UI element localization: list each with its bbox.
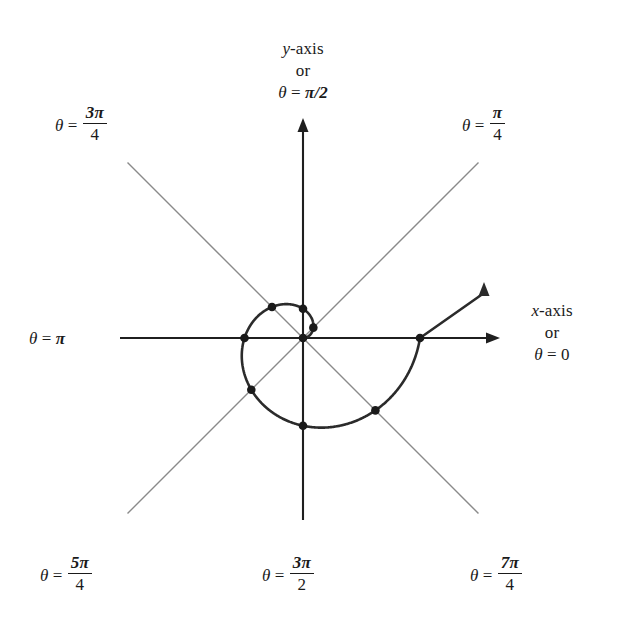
fraction-numerator: 3π [290, 553, 314, 574]
ray-label-5pi-4: θ = 5π4 [40, 553, 93, 594]
spiral-point-2π [416, 334, 425, 343]
y-axis-label: y-axis or θ = π/2 [238, 38, 368, 103]
spiral-point-7π/4 [371, 406, 380, 415]
coordinate-axes [120, 118, 500, 520]
fraction-denominator: 2 [290, 574, 314, 594]
y-axis-arrowhead [298, 118, 309, 132]
ray-label-fraction: 5π4 [68, 553, 92, 594]
fraction-denominator: 4 [490, 124, 505, 144]
x-axis-label-or: or [497, 322, 607, 344]
ray-label-3pi-2: θ = 3π2 [262, 553, 315, 594]
ray-label-equals: = [478, 566, 496, 585]
ray-label-7pi-4: θ = 7π4 [470, 553, 523, 594]
archimedean-spiral-curve [242, 282, 490, 428]
fraction-denominator: 4 [68, 574, 92, 594]
fraction-denominator: 4 [498, 574, 522, 594]
x-axis-label-theta: θ = 0 [497, 344, 607, 366]
spiral-point-π/2 [299, 304, 308, 313]
ray-label-fraction: π4 [490, 103, 505, 144]
x-axis-label: x-axis or θ = 0 [497, 300, 607, 365]
ray-label-equals: = [470, 116, 488, 135]
spiral-point-5π/4 [247, 385, 256, 394]
spiral-point-π/4 [309, 323, 318, 332]
spiral-point-3π/2 [299, 421, 308, 430]
ray-label-equals: = [48, 566, 66, 585]
ray-label-fraction: 3π2 [290, 553, 314, 594]
fraction-numerator: 5π [68, 553, 92, 574]
fraction-numerator: π [490, 103, 505, 124]
ray-label-fraction: 7π4 [498, 553, 522, 594]
polar-spiral-figure: y-axis or θ = π/2 x-axis or θ = 0 θ = π … [0, 0, 625, 617]
fraction-denominator: 4 [83, 124, 107, 144]
spiral-terminal-stem [420, 293, 484, 338]
spiral-point-3π/4 [268, 303, 277, 312]
marked-point-dots [240, 303, 424, 430]
y-axis-label-theta: θ = π/2 [238, 82, 368, 104]
origin-dot [299, 334, 308, 343]
fraction-numerator: 3π [83, 103, 107, 124]
ray-label-fraction: 3π4 [83, 103, 107, 144]
x-axis-label-line1: x-axis [497, 300, 607, 322]
y-axis-label-or: or [238, 60, 368, 82]
ray-label-pi: θ = π [29, 328, 65, 350]
y-axis-label-line1: y-axis [238, 38, 368, 60]
spiral-terminal-arrowhead [479, 282, 490, 296]
ray-label-equals: = [63, 116, 81, 135]
ray-label-equals: = [270, 566, 288, 585]
fraction-numerator: 7π [498, 553, 522, 574]
ray-label-3pi-4: θ = 3π4 [55, 103, 108, 144]
spiral-point-π [240, 334, 249, 343]
ray-label-pi-4: θ = π4 [462, 103, 506, 144]
